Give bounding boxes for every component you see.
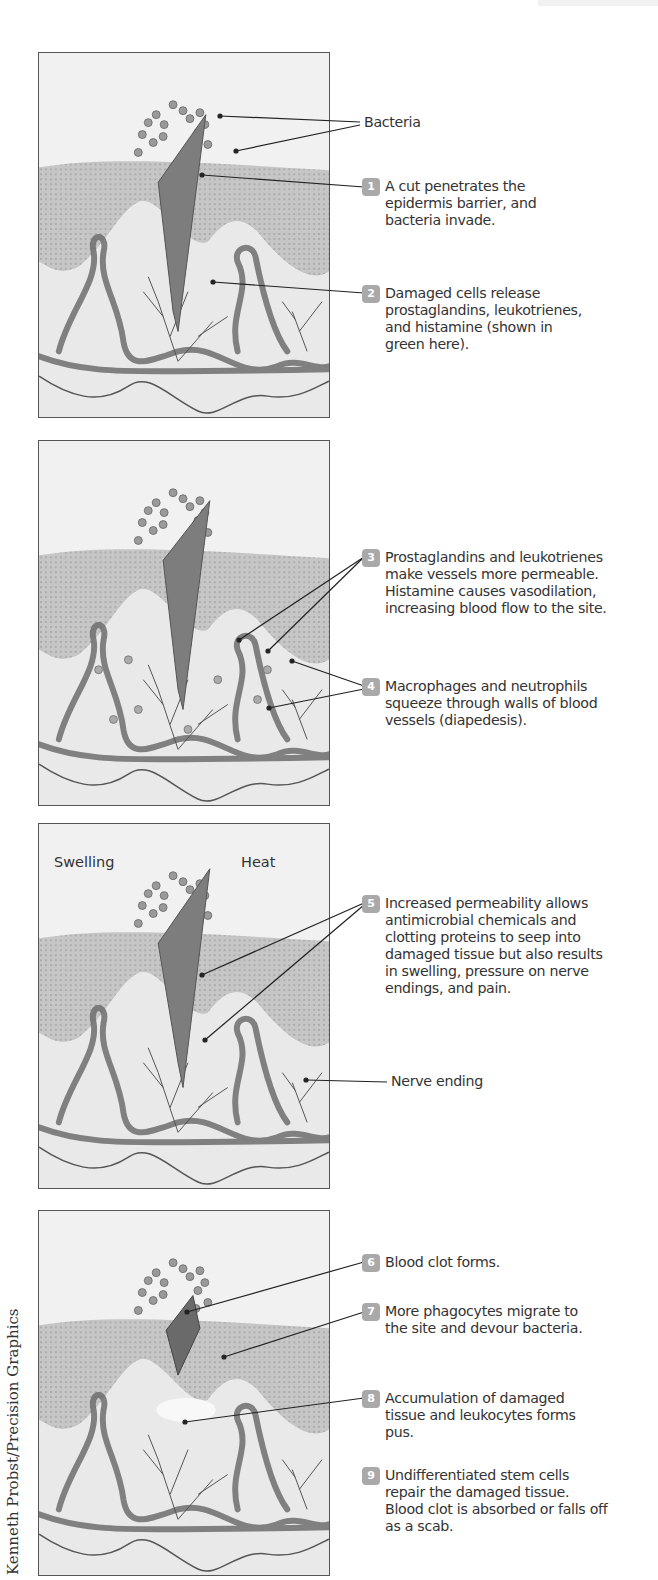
page-header-fragment [538,0,658,6]
step-text: Damaged cells release prostaglandins, le… [363,285,585,353]
step-2: 2 Damaged cells release prostaglandins, … [363,285,653,353]
panel-1-cut-invasion [38,52,330,418]
step-text: Undifferentiated stem cells repair the d… [363,1467,611,1535]
step-text: A cut penetrates the epidermis barrier, … [363,178,585,229]
wound-wedge [39,441,329,805]
wound-wedge [39,824,329,1188]
step-8: 8 Accumulation of damaged tissue and leu… [363,1390,653,1441]
blood-clot [39,1211,329,1575]
step-9: 9 Undifferentiated stem cells repair the… [363,1467,653,1535]
step-text: Blood clot forms. [363,1254,611,1271]
step-badge: 7 [362,1303,380,1321]
step-badge: 3 [362,549,380,567]
swelling-label: Swelling [54,854,114,870]
step-badge: 5 [362,895,380,913]
panel-2-vessel-response [38,440,330,806]
illustration-credit: Kenneth Probst/Precision Graphics [4,1308,22,1575]
wound-wedge [39,53,329,417]
nerve-ending-label: Nerve ending [391,1073,483,1089]
step-badge: 6 [362,1254,380,1272]
step-badge: 2 [362,285,380,303]
heat-label: Heat [241,854,275,870]
step-badge: 8 [362,1390,380,1408]
step-7: 7 More phagocytes migrate to the site an… [363,1303,653,1337]
step-text: Increased permeability allows antimicrob… [363,895,611,997]
panel-3-swelling-heat: Swelling Heat [38,823,330,1189]
step-badge: 9 [362,1467,380,1485]
step-badge: 1 [362,178,380,196]
step-3: 3 Prostaglandins and leukotrienes make v… [363,549,653,617]
step-text: Accumulation of damaged tissue and leuko… [363,1390,595,1441]
step-text: Prostaglandins and leukotrienes make ves… [363,549,621,617]
step-4: 4 Macrophages and neutrophils squeeze th… [363,678,653,729]
panel-4-healing [38,1210,330,1576]
pus [156,1398,216,1422]
step-text: Macrophages and neutrophils squeeze thro… [363,678,621,729]
step-1: 1 A cut penetrates the epidermis barrier… [363,178,653,229]
step-badge: 4 [362,678,380,696]
bacteria-label: Bacteria [364,114,421,130]
step-5: 5 Increased permeability allows antimicr… [363,895,653,997]
step-6: 6 Blood clot forms. [363,1254,653,1271]
step-text: More phagocytes migrate to the site and … [363,1303,601,1337]
